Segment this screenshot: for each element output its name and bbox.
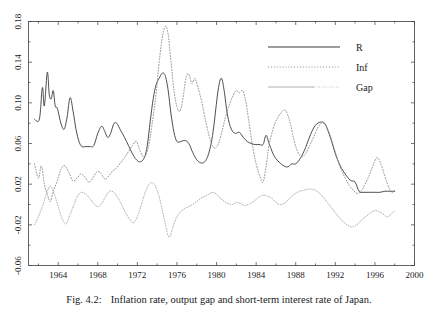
- legend-label-inf: Inf: [356, 62, 368, 73]
- x-tick-label: 2000: [406, 270, 425, 280]
- y-tick-label: -0.02: [13, 215, 23, 234]
- caption-text: Inflation rate, output gap and short-ter…: [111, 294, 372, 305]
- plot-frame: [29, 22, 415, 266]
- y-tick-label: 0.14: [13, 54, 23, 70]
- y-axis-tick-labels: -0.06-0.020.020.060.100.140.18: [13, 13, 23, 275]
- x-tick-label: 1984: [247, 270, 266, 280]
- caption-number: Fig. 4.2:: [66, 294, 101, 305]
- y-tick-label: 0.06: [13, 135, 23, 151]
- x-tick-label: 1988: [287, 270, 306, 280]
- x-axis-tick-labels: 1964196819721976198019841988199219962000: [49, 270, 424, 280]
- series-line-r: [34, 72, 394, 192]
- y-tick-label: -0.06: [13, 256, 23, 275]
- y-tick-label: 0.18: [13, 13, 23, 29]
- legend-label-gap: Gap: [356, 82, 373, 93]
- x-tick-label: 1992: [326, 270, 344, 280]
- series-line-inf: [34, 26, 394, 201]
- plot-border: [29, 22, 415, 266]
- y-axis-ticks: [29, 22, 415, 266]
- chart-plot: 1964196819721976198019841988199219962000…: [0, 0, 438, 319]
- x-tick-label: 1996: [366, 270, 385, 280]
- chart-legend: RInfGap: [268, 42, 373, 93]
- series-line-gap: [34, 183, 394, 238]
- x-tick-label: 1980: [208, 270, 227, 280]
- legend-label-r: R: [356, 42, 363, 53]
- y-tick-label: 0.02: [13, 176, 23, 192]
- x-tick-label: 1976: [168, 270, 187, 280]
- x-tick-label: 1968: [89, 270, 108, 280]
- x-tick-label: 1964: [49, 270, 68, 280]
- data-series-layer: [34, 26, 394, 237]
- figure-container: 1964196819721976198019841988199219962000…: [0, 0, 438, 319]
- figure-caption: Fig. 4.2:Inflation rate, output gap and …: [0, 294, 438, 305]
- y-tick-label: 0.10: [13, 94, 23, 110]
- x-tick-label: 1972: [128, 270, 146, 280]
